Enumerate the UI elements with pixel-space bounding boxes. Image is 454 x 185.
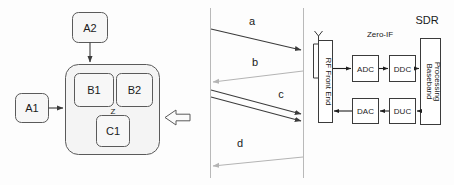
block-rf-front-end-label: RF Front End	[324, 57, 333, 105]
hollow-arrow-into-container	[165, 110, 190, 125]
box-b2-label: B2	[128, 84, 141, 96]
message-c-arrow-2	[211, 97, 301, 121]
figure-canvas: B1 B2 Z C1 A2 A1	[0, 0, 454, 185]
message-b-label: b	[252, 56, 258, 68]
message-a-arrow	[211, 29, 301, 50]
box-a2-label: A2	[83, 22, 96, 34]
block-duc-label: DUC	[394, 107, 412, 116]
message-c-arrow-1	[211, 90, 301, 114]
message-c-label: c	[278, 88, 284, 100]
message-b-arrow	[213, 71, 303, 82]
box-b1-label: B1	[87, 84, 100, 96]
block-adc-label: ADC	[357, 65, 374, 74]
message-a-label: a	[249, 15, 256, 27]
sequence-diagram: a b c d	[211, 8, 304, 178]
junction-z-label: Z	[111, 107, 116, 116]
sdr-diagram: SDR Zero-IF RF Front End ADC DDC Baseban…	[314, 14, 443, 125]
message-d-arrow	[213, 157, 303, 166]
block-dac-label: DAC	[357, 107, 374, 116]
block-baseband-processing-label-line1: Baseband	[425, 63, 434, 99]
box-a1-label: A1	[25, 102, 38, 114]
block-baseband-processing-label-line2: Processing	[433, 62, 442, 102]
left-diagram: B1 B2 Z C1 A2 A1	[16, 13, 191, 155]
block-ddc-label: DDC	[394, 65, 412, 74]
sdr-group-label: SDR	[415, 14, 438, 26]
figure-root: B1 B2 Z C1 A2 A1	[0, 0, 454, 185]
message-d-label: d	[237, 137, 243, 149]
zero-if-label: Zero-IF	[367, 30, 393, 39]
box-c1-label: C1	[106, 125, 120, 137]
